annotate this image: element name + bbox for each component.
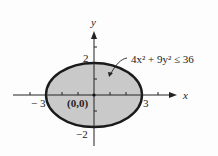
origin-label: (0,0) <box>67 97 88 110</box>
ellipse-region-diagram: y x 2 −2 − 3 3 (0,0) 4x² + 9y² ≤ 36 <box>0 0 218 156</box>
tick-label-x-neg: − 3 <box>31 97 46 109</box>
y-axis-arrow-icon <box>91 31 97 39</box>
origin-point <box>92 93 95 96</box>
y-axis-label: y <box>90 16 96 28</box>
inequality-label: 4x² + 9y² ≤ 36 <box>131 53 194 65</box>
x-axis-arrow-icon <box>169 92 177 98</box>
x-axis-label: x <box>182 89 188 101</box>
tick-label-y-neg: −2 <box>76 128 88 140</box>
tick-label-x-pos: 3 <box>143 97 149 109</box>
tick-label-y-pos: 2 <box>83 52 89 64</box>
